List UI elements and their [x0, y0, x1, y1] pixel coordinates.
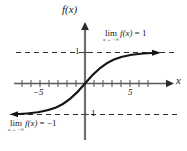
x-tick-label-pos5: 5	[128, 88, 133, 97]
limit-minus-operator-stack: lim x → −∞	[8, 119, 24, 132]
limit-plus-body: f(x)	[120, 28, 133, 38]
y-axis-label: f(x)	[62, 4, 77, 15]
limit-annotation-plus-infinity: lim x → +∞ f(x) = 1	[103, 28, 146, 42]
y-axis-arrow	[81, 22, 89, 30]
y-tick-label-lower: 1	[91, 109, 96, 118]
curve-right-arrow	[152, 50, 161, 56]
limit-annotation-minus-infinity: lim x → −∞ f(x) = −1	[8, 118, 56, 132]
limit-plus-subscript: x → +∞	[103, 37, 119, 42]
limit-graph-figure: f(x) x −5 5 1 1 lim x → +∞ f(x) = 1 lim …	[0, 0, 187, 151]
x-tick-label-neg5: −5	[33, 88, 44, 97]
x-axis-arrow	[166, 80, 174, 87]
limit-minus-body: f(x)	[25, 118, 38, 128]
limit-minus-subscript: x → −∞	[8, 127, 24, 132]
y-tick-label-upper: 1	[75, 47, 80, 56]
limit-plus-equals: = 1	[135, 28, 147, 38]
x-axis-label: x	[176, 75, 181, 86]
curve-left-arrow	[10, 111, 18, 117]
limit-plus-operator-stack: lim x → +∞	[103, 29, 119, 42]
limit-minus-equals: = −1	[40, 118, 57, 128]
